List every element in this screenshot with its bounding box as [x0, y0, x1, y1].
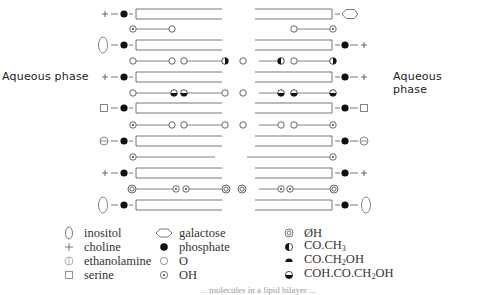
- choline-icon: [60, 242, 78, 252]
- figure-caption-cutoff: ... molecules in a lipid bilayer ...: [200, 285, 316, 295]
- acetyl-icon: [280, 242, 298, 252]
- phosphate-icon: [120, 137, 127, 144]
- legend-item-choline: choline: [60, 240, 151, 254]
- oxygen-icon: [222, 122, 228, 128]
- inositol-icon: [99, 197, 108, 213]
- oxygen-icon: [169, 26, 175, 32]
- inositol-icon: [99, 37, 108, 53]
- legend-item-ethanolamine: ethanolamine: [60, 254, 151, 268]
- phosphate-icon: [120, 201, 127, 208]
- hydroxyl-icon: [130, 122, 136, 128]
- serine-icon: [361, 105, 368, 112]
- phenolic-oh-icon: [128, 185, 136, 193]
- right-head-symbols: [341, 10, 370, 214]
- choline-icon: [361, 42, 367, 48]
- acetyl-icon: [278, 58, 285, 65]
- hydroxyl-icon: [330, 122, 336, 128]
- serine-icon: [60, 270, 78, 280]
- interleaved-lines: [136, 29, 330, 189]
- phenolic-oh-icon: [238, 185, 246, 193]
- oxygen-icon: [240, 58, 246, 64]
- left-aqueous-phase-label: Aqueous phase: [2, 70, 89, 83]
- choline-icon: [361, 170, 367, 176]
- hydroxyacetyl-icon: [280, 256, 298, 266]
- phosphate-icon: [120, 169, 127, 176]
- phosphate-icon: [341, 104, 348, 111]
- oxygen-icon: [181, 122, 187, 128]
- legend-item-dihydroxyacetone: COH.CO.CH2OH: [280, 268, 393, 282]
- dihydroxyacetone-icon: [280, 270, 298, 280]
- oxygen-icon: [278, 122, 284, 128]
- phosphate-icon: [155, 242, 173, 252]
- ethanolamine-icon: [360, 137, 368, 145]
- phenolic-oh-icon: [330, 185, 338, 193]
- legend-column-2: galactose phosphate O OH: [155, 226, 230, 282]
- serine-icon: [101, 105, 108, 112]
- right-aqueous-phase-label: Aqueous phase: [393, 70, 478, 96]
- oxygen-icon: [155, 256, 173, 266]
- choline-icon: [361, 74, 367, 80]
- phosphate-icon: [120, 73, 127, 80]
- bilayer-rows: [136, 9, 332, 210]
- acetyl-icon: [222, 58, 229, 65]
- phosphate-icon: [341, 201, 348, 208]
- inositol-icon: [362, 197, 371, 213]
- oxygen-icon: [240, 122, 246, 128]
- hydroxyl-icon: [330, 26, 336, 32]
- oxygen-icon: [169, 58, 175, 64]
- galactose-icon: [342, 10, 358, 19]
- hydroxyl-icon: [278, 186, 284, 192]
- oxygen-icon: [169, 122, 175, 128]
- choline-icon: [102, 11, 108, 17]
- choline-icon: [102, 170, 108, 176]
- oxygen-icon: [291, 122, 297, 128]
- oxygen-icon: [240, 90, 246, 96]
- oxygen-icon: [291, 58, 297, 64]
- galactose-icon: [155, 228, 173, 238]
- dihydroxyacetone-icon: [278, 90, 285, 97]
- oxygen-icon: [130, 90, 136, 96]
- phosphate-icon: [341, 169, 348, 176]
- phosphate-icon: [120, 41, 127, 48]
- phosphate-icon: [341, 137, 348, 144]
- acetyl-icon: [330, 58, 337, 65]
- oxygen-icon: [181, 58, 187, 64]
- choline-icon: [102, 74, 108, 80]
- legend-item-serine: serine: [60, 268, 151, 282]
- oxygen-icon: [222, 90, 228, 96]
- phenolic-oh-icon: [222, 185, 230, 193]
- ethanolamine-icon: [60, 256, 78, 266]
- legend-column-1: inositol choline ethanolamine serine: [60, 226, 151, 282]
- hydroxyl-icon: [183, 186, 189, 192]
- dihydroxyacetone-icon: [291, 90, 298, 97]
- phosphate-icon: [120, 104, 127, 111]
- phosphate-icon: [341, 73, 348, 80]
- hydroxyl-icon: [130, 154, 136, 160]
- oxygen-icon: [130, 58, 136, 64]
- legend-item-galactose: galactose: [155, 226, 230, 240]
- legend-column-3: ØH CO.CH3 CO.CH2OH COH.CO.CH2OH: [280, 226, 393, 282]
- phosphate-icon: [341, 41, 348, 48]
- left-head-symbols: [99, 10, 128, 213]
- dihydroxyacetone-icon: [171, 90, 178, 97]
- hydroxyl-icon: [287, 186, 293, 192]
- hydroxyl-icon: [155, 270, 173, 280]
- legend-item-inositol: inositol: [60, 226, 151, 240]
- hydroxyl-icon: [130, 26, 136, 32]
- phenolic-oh-icon: [280, 228, 298, 238]
- legend-item-hydroxyl: OH: [155, 268, 230, 282]
- dihydroxyacetone-icon: [181, 90, 188, 97]
- ethanolamine-icon: [100, 137, 108, 145]
- dihydroxyacetone-icon: [330, 90, 337, 97]
- inositol-icon: [60, 226, 78, 240]
- phosphate-icon: [120, 10, 127, 17]
- hydroxyl-icon: [173, 186, 179, 192]
- legend-item-phosphate: phosphate: [155, 240, 230, 254]
- hydroxyl-icon: [330, 154, 336, 160]
- oxygen-icon: [291, 26, 297, 32]
- legend-item-oxygen: O: [155, 254, 230, 268]
